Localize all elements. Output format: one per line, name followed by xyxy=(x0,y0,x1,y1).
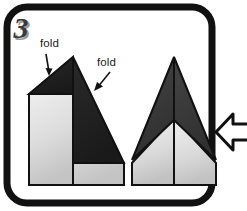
instruction-panel: 3 3 fold fold xyxy=(0,0,247,211)
arrow-down-left-icon xyxy=(94,72,110,91)
arrow-down-icon xyxy=(46,54,53,76)
annotation-arrows xyxy=(0,0,247,211)
arrow-left-icon[interactable] xyxy=(216,114,247,150)
